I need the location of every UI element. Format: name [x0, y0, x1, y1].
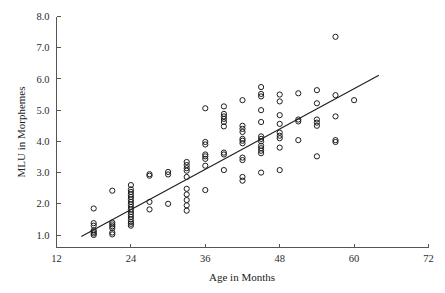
data-point: [277, 113, 282, 118]
y-tick-label: 5.0: [36, 105, 49, 116]
data-point: [203, 106, 208, 111]
data-points-layer: [91, 34, 357, 237]
data-point: [184, 208, 189, 213]
data-point: [240, 98, 245, 103]
data-point: [296, 91, 301, 96]
data-point: [333, 34, 338, 39]
data-point: [259, 108, 264, 113]
x-tick-label: 60: [349, 253, 360, 264]
data-point: [314, 88, 319, 93]
x-axis-title: Age in Months: [209, 271, 275, 283]
data-point: [259, 84, 264, 89]
x-tick-label: 72: [423, 253, 434, 264]
data-point: [277, 167, 282, 172]
data-point: [203, 187, 208, 192]
y-tick-label: 1.0: [36, 230, 49, 241]
data-point: [240, 174, 245, 179]
x-tick-label: 12: [51, 253, 62, 264]
data-point: [277, 99, 282, 104]
data-point: [221, 167, 226, 172]
data-point: [240, 123, 245, 128]
data-point: [184, 192, 189, 197]
x-tick-label: 24: [126, 253, 137, 264]
scatter-plot-figure: 1.02.03.04.05.06.07.08.0 122436486072 Ag…: [0, 0, 445, 293]
data-point: [166, 201, 171, 206]
data-point: [184, 186, 189, 191]
data-point: [314, 117, 319, 122]
data-point: [314, 154, 319, 159]
y-tick-label: 3.0: [36, 167, 49, 178]
data-point: [203, 163, 208, 168]
y-tick-label: 4.0: [36, 136, 49, 147]
plot-canvas: 1.02.03.04.05.06.07.08.0 122436486072 Ag…: [0, 0, 445, 293]
data-point: [147, 207, 152, 212]
x-axis-ticks: 122436486072: [51, 244, 434, 264]
data-point: [333, 93, 338, 98]
data-point: [259, 170, 264, 175]
data-point: [352, 98, 357, 103]
y-tick-label: 8.0: [36, 11, 49, 22]
data-point: [296, 138, 301, 143]
data-point: [314, 101, 319, 106]
x-tick-label: 36: [200, 253, 211, 264]
y-tick-label: 6.0: [36, 74, 49, 85]
data-point: [91, 206, 96, 211]
data-point: [277, 130, 282, 135]
regression-line: [81, 75, 379, 236]
y-tick-label: 2.0: [36, 198, 49, 209]
x-tick-label: 48: [274, 253, 285, 264]
data-point: [259, 119, 264, 124]
y-tick-label: 7.0: [36, 42, 49, 53]
data-point: [277, 145, 282, 150]
data-point: [333, 114, 338, 119]
data-point: [184, 197, 189, 202]
data-point: [110, 188, 115, 193]
data-point: [277, 92, 282, 97]
data-point: [277, 121, 282, 126]
axis-spines: [57, 17, 429, 248]
data-point: [221, 104, 226, 109]
y-axis-title: MLU in Morphemes: [15, 86, 27, 177]
data-point: [184, 203, 189, 208]
data-point: [184, 159, 189, 164]
